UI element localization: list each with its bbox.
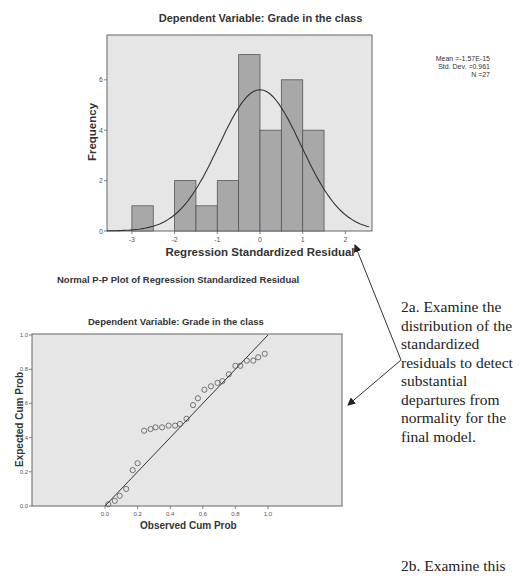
y-tick-label: 0 xyxy=(99,228,103,235)
y-tick-label: 2 xyxy=(99,177,103,184)
histogram-bar xyxy=(303,130,324,231)
histogram-x-label: Regression Standardized Residual xyxy=(155,246,365,258)
pp-plot-y-label: Expected Cum Prob xyxy=(14,365,25,475)
histogram-bar xyxy=(175,181,196,231)
histogram-y-label: Frequency xyxy=(86,92,98,172)
y-tick-label: 0.0 xyxy=(20,503,29,509)
pp-plot-heading: Normal P-P Plot of Regression Standardiz… xyxy=(57,274,299,285)
histogram-bar xyxy=(239,55,260,231)
x-tick-label: 0.4 xyxy=(166,511,175,517)
histogram-chart: -3-2-101202460.00.20.40.60.81.00.00.20.4… xyxy=(0,0,521,581)
stat-n: N =27 xyxy=(430,71,490,79)
stat-std-dev: Std. Dev. =0.961 xyxy=(430,63,490,71)
stat-mean: Mean =-1.57E-15 xyxy=(430,55,490,63)
histogram-bar xyxy=(196,206,217,231)
pp-plot-title: Dependent Variable: Grade in the class xyxy=(88,316,264,327)
x-tick-label: 0.0 xyxy=(101,511,110,517)
x-tick-label: 2 xyxy=(343,236,347,243)
x-tick-label: -1 xyxy=(214,236,220,243)
arrow-to-pp-plot xyxy=(348,360,401,405)
x-tick-label: -2 xyxy=(171,236,177,243)
x-tick-label: 0.8 xyxy=(231,511,240,517)
y-tick-label: 4 xyxy=(99,127,103,134)
histogram-bar xyxy=(217,181,238,231)
histogram-bar xyxy=(281,80,302,231)
histogram-bar xyxy=(260,130,281,231)
x-tick-label: 0.6 xyxy=(199,511,208,517)
arrow-to-histogram xyxy=(355,245,401,360)
y-tick-label: 1.0 xyxy=(20,332,29,338)
histogram-stats: Mean =-1.57E-15 Std. Dev. =0.961 N =27 xyxy=(430,55,490,79)
pp-plot-x-label: Observed Cum Prob xyxy=(140,520,237,531)
x-tick-label: 0 xyxy=(258,236,262,243)
x-tick-label: 1.0 xyxy=(264,511,273,517)
x-tick-label: 1 xyxy=(301,236,305,243)
y-tick-label: 6 xyxy=(99,76,103,83)
annotation-2b: 2b. Examine this xyxy=(401,557,519,576)
x-tick-label: -3 xyxy=(129,236,135,243)
annotation-2a: 2a. Examine the distribution of the stan… xyxy=(401,298,519,446)
x-tick-label: 0.2 xyxy=(133,511,142,517)
